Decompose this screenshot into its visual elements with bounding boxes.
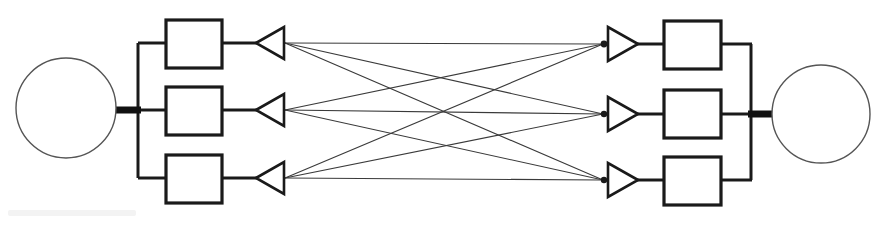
link-L1-R1 (285, 43, 603, 44)
left-box-2[interactable] (166, 87, 222, 135)
diagram-canvas (0, 0, 878, 225)
left-triangle-1[interactable] (256, 27, 284, 59)
scan-smudge (8, 210, 136, 216)
right-box-1[interactable] (664, 21, 721, 69)
junction-dot-2 (601, 111, 607, 117)
crossbar-mesh (285, 43, 603, 180)
link-L3-R3 (285, 178, 603, 180)
right-triangle-2[interactable] (608, 97, 638, 131)
schematic-svg (0, 0, 878, 225)
right-box-2[interactable] (664, 90, 721, 138)
junction-dot-1 (601, 41, 608, 48)
left-box-1[interactable] (166, 20, 222, 68)
left-triangle-3[interactable] (256, 162, 284, 194)
junction-dots (601, 41, 608, 184)
left-circle-node[interactable] (16, 58, 116, 158)
right-triangle-1[interactable] (608, 27, 638, 61)
link-L2-R3 (285, 110, 603, 180)
link-L3-R2 (285, 114, 603, 178)
right-triangle-3[interactable] (608, 163, 638, 197)
right-box-3[interactable] (664, 157, 721, 205)
junction-dot-3 (601, 177, 607, 183)
left-box-3[interactable] (166, 155, 222, 203)
right-circle-node[interactable] (772, 65, 870, 163)
left-triangle-2[interactable] (256, 94, 284, 126)
